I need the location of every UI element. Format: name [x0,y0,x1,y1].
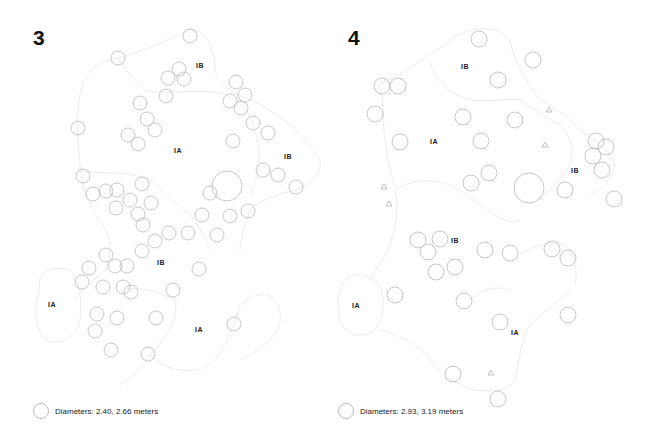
feature-circle [585,148,601,164]
feature-circle [387,287,403,303]
triangle-marker-icon [546,107,552,112]
feature-circle [557,182,573,198]
feature-circle [560,307,576,323]
feature-circle [445,366,461,382]
legend-circle-icon [338,403,354,419]
feature-circle [492,314,508,330]
feature-circle [432,231,448,247]
triangle-markers [381,107,552,375]
feature-circle [481,165,497,181]
feature-circle [477,242,493,258]
zone-boundary-line [338,275,383,336]
zone-boundary-line [380,290,570,391]
zone-label: IA [511,329,519,336]
feature-circle [490,72,506,88]
feature-circle [463,175,479,191]
feature-circle [525,52,541,68]
triangle-marker-icon [386,201,392,206]
feature-circle [606,191,622,207]
feature-circle [502,245,518,261]
triangle-marker-icon [381,184,387,189]
zone-boundary-line [378,85,395,185]
feature-circle [594,162,610,178]
zone-label: IA [430,138,438,145]
feature-circle [507,112,523,128]
feature-circle [490,391,506,407]
zone-label: IB [571,167,579,174]
feature-circle [514,173,544,203]
zone-boundary-line [520,243,576,285]
feature-circle [471,31,487,47]
panel-number: 4 [348,26,360,50]
feature-circle [374,78,390,94]
zone-boundary-line [470,288,510,300]
feature-circle [447,259,463,275]
site-plan-4 [0,0,655,447]
feature-circle [473,133,489,149]
diagram-panel-4: 4 IBIAIBIBIAIA Diameters: 2.93, 3.19 met… [0,0,655,447]
triangle-marker-icon [542,142,548,147]
feature-circle [420,244,436,260]
legend-text: Diameters: 2.93, 3.19 meters [360,407,463,416]
feature-circle [390,78,406,94]
zone-label: IB [451,237,459,244]
zone-boundary-line [395,181,520,222]
zone-label: IB [461,63,469,70]
zone-boundaries [338,29,615,391]
zone-boundary-line [430,62,572,200]
feature-circle [392,134,408,150]
feature-circle [456,293,472,309]
zone-boundary-line [370,190,397,280]
triangle-marker-icon [488,370,494,375]
feature-circle [455,109,471,125]
feature-circle [428,264,444,280]
feature-circles [367,31,622,407]
legend: Diameters: 2.93, 3.19 meters [338,403,463,419]
feature-circle [367,106,383,122]
zone-label: IA [352,302,360,309]
